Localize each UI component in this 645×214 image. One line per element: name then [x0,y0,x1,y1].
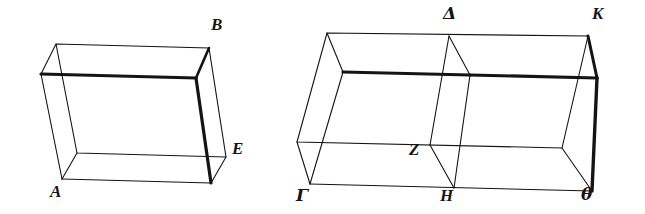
geometry-figure: B E A Δ K Z Γ H θ [0,0,645,214]
label-delta: Δ [443,5,456,22]
label-E: E [232,140,243,157]
figure-background [0,0,645,214]
label-H: H [440,187,453,204]
parallelepiped-line-drawing [0,0,645,214]
label-A: A [50,183,61,200]
label-Z: Z [409,141,419,158]
label-K: K [592,5,603,22]
label-theta: θ [581,186,592,203]
label-gamma: Γ [296,187,308,204]
label-B: B [211,16,222,33]
